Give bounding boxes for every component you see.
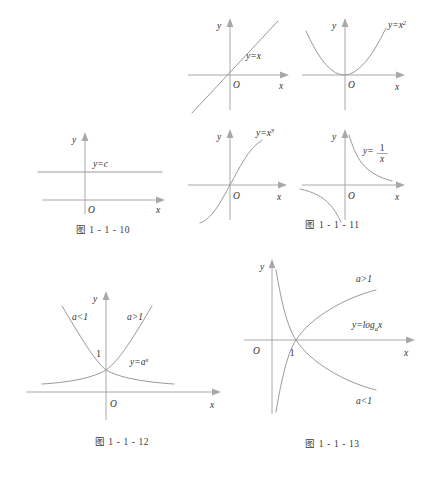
curve-cubic [200, 140, 262, 223]
region-label-a-greater-1: a>1 [356, 274, 372, 284]
curve-hyperbola-branch-1 [349, 135, 392, 181]
plot-y-equals-x-squared: y x O y=x2 [300, 14, 425, 114]
x-axis-label: x [276, 192, 282, 202]
curve-label-y-equals-x-cubed: y=x3 [255, 127, 275, 139]
plot-exponential: y x O 1 a<1 a>1 y=ax [22, 260, 222, 430]
curve-log-a-less-1 [276, 270, 376, 390]
figure-y-equals-x-squared: y x O y=x2 [300, 14, 425, 114]
y-axis-label: y [216, 21, 222, 31]
x-axis-arrow [280, 72, 289, 79]
x-axis-label: x [209, 400, 215, 410]
plot-y-equals-x: y x O y=x [186, 14, 306, 114]
plot-logarithmic: y x O 1 a>1 a<1 y=logax [240, 256, 425, 431]
y-axis-label: y [92, 294, 98, 304]
y-axis-arrow [269, 259, 276, 268]
curve-label-y-equals-x-squared: y=x2 [387, 19, 407, 31]
origin-label: O [88, 205, 95, 215]
x-axis-arrow [396, 72, 405, 79]
curve-label-y-equals-log-a-x: y=logax [351, 320, 383, 332]
plot-y-equals-c: y x O y=c [38, 128, 168, 218]
intercept-label-1: 1 [290, 348, 295, 358]
x-axis-label: x [403, 348, 409, 358]
caption-fig-1-1-10: 图 1 - 1 - 10 [38, 222, 168, 236]
origin-label: O [233, 80, 240, 90]
y-axis-arrow [342, 129, 349, 138]
origin-label: O [348, 191, 355, 201]
caption-fig-1-1-12: 图 1 - 1 - 12 [22, 434, 222, 448]
plot-y-equals-x-cubed: y x O y=x3 [186, 125, 306, 225]
x-axis-arrow [396, 182, 405, 189]
x-axis-arrow [278, 182, 287, 189]
curve-label-y-equals-x: y=x [245, 51, 262, 61]
y-axis-label: y [71, 135, 77, 145]
y-axis-arrow [342, 18, 349, 27]
figure-y-equals-log-a-x: y x O 1 a>1 a<1 y=logax 图 1 - 1 - 13 [240, 256, 425, 431]
curve-y-equals-x [192, 21, 278, 113]
y-axis-arrow [103, 291, 110, 300]
figure-sheet: y x O y=c 图 1 - 1 - 10 y x O y=x [0, 0, 432, 482]
curve-label-y-equals-one-over-x: y= 1 x [362, 143, 388, 164]
intercept-label-1: 1 [96, 349, 101, 359]
fraction-denominator: x [379, 154, 385, 164]
y-axis-arrow [82, 132, 89, 141]
y-axis-arrow [227, 129, 234, 138]
origin-label: O [110, 399, 117, 409]
region-label-a-greater-1: a>1 [127, 312, 143, 322]
figure-y-equals-x: y x O y=x [186, 14, 306, 114]
x-axis-arrow [406, 337, 415, 344]
plot-y-equals-one-over-x: y x O y= 1 x [300, 125, 425, 225]
region-label-a-less-1: a<1 [72, 312, 88, 322]
curve-label-y-equals-c: y=c [92, 159, 109, 169]
x-axis-label: x [394, 82, 400, 92]
figure-y-equals-one-over-x: y x O y= 1 x 图 1 - 1 - 11 [300, 125, 425, 225]
origin-label: O [348, 80, 355, 90]
figure-y-equals-a-to-x: y x O 1 a<1 a>1 y=ax 图 1 - 1 - 12 [22, 260, 222, 430]
caption-fig-1-1-11: 图 1 - 1 - 11 [270, 217, 395, 231]
x-axis-arrow [212, 389, 221, 396]
region-label-a-less-1: a<1 [356, 396, 372, 406]
curve-parabola [306, 28, 386, 75]
figure-y-equals-x-cubed: y x O y=x3 [186, 125, 306, 225]
origin-label: O [253, 346, 260, 356]
origin-label: O [233, 191, 240, 201]
fraction-numerator: 1 [380, 143, 385, 153]
y-axis-label: y [331, 132, 337, 142]
fraction-lhs: y= [362, 146, 374, 156]
curve-label-y-equals-a-to-x: y=ax [129, 356, 148, 368]
y-axis-label: y [216, 132, 222, 142]
y-axis-label: y [331, 21, 337, 31]
caption-fig-1-1-13: 图 1 - 1 - 13 [240, 436, 425, 450]
x-axis-label: x [278, 81, 284, 91]
figure-y-equals-c: y x O y=c 图 1 - 1 - 10 [38, 128, 168, 218]
y-axis-arrow [227, 18, 234, 27]
x-axis-label: x [155, 205, 161, 215]
x-axis-arrow [156, 197, 165, 204]
y-axis-label: y [259, 262, 265, 272]
x-axis-label: x [394, 192, 400, 202]
